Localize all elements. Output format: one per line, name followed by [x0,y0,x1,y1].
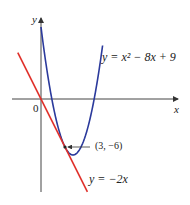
point-label: (3, −6) [95,140,122,151]
origin-label: 0 [33,102,39,114]
tangent-point [63,145,66,148]
parabola-curve [41,27,103,155]
parabola-label: y = x² − 8x + 9 [102,50,176,65]
chart: y x 0 y = x² − 8x + 9 (3, −6) y = −2x [0,0,190,205]
y-axis-label: y [32,13,37,25]
x-axis-label: x [174,103,179,115]
line-label: y = −2x [89,172,128,187]
tangent-line [18,53,88,192]
